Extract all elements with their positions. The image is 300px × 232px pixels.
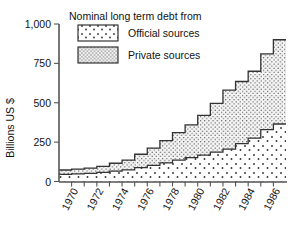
y-tick-label: 750 bbox=[33, 57, 51, 69]
legend-swatch-official-sources bbox=[78, 25, 118, 41]
y-axis-title: Billions US $ bbox=[4, 98, 16, 158]
chart-container: 02505007501,000 Billions US $ 1970197219… bbox=[0, 0, 300, 232]
y-tick-label: 0 bbox=[45, 176, 51, 188]
legend-item-private-sources: Private sources bbox=[78, 47, 200, 63]
debt-stacked-area-chart: 02505007501,000 Billions US $ 1970197219… bbox=[0, 0, 300, 232]
legend-title: Nominal long term debt from bbox=[69, 10, 202, 22]
legend-label-official-sources: Official sources bbox=[128, 27, 200, 39]
legend-item-official-sources: Official sources bbox=[78, 25, 200, 41]
y-tick-label: 500 bbox=[33, 97, 51, 109]
chart-legend: Nominal long term debt from Official sou… bbox=[69, 10, 202, 63]
y-tick-label: 1,000 bbox=[25, 18, 51, 30]
legend-label-private-sources: Private sources bbox=[128, 49, 200, 61]
y-tick-label: 250 bbox=[33, 136, 51, 148]
legend-swatch-private-sources bbox=[78, 47, 118, 63]
